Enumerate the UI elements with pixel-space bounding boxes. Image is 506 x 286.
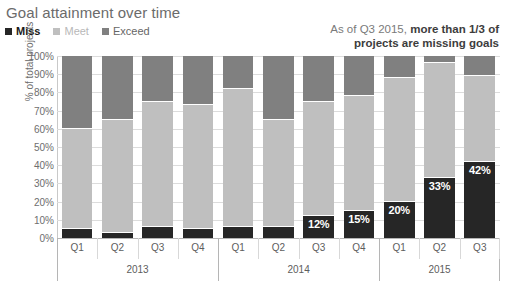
x-axis-year-labels: 201320142015 (57, 259, 500, 282)
x-axis-tick (57, 238, 58, 259)
x-axis-year-divider (218, 259, 219, 281)
stacked-bar[interactable]: 20% (384, 56, 415, 238)
bar-segment-meet[interactable] (384, 78, 415, 202)
x-axis-quarter-text: Q1 (393, 242, 406, 253)
x-axis-tick (499, 238, 500, 259)
bar-segment-miss[interactable] (223, 227, 254, 238)
bar-segment-miss[interactable] (183, 229, 214, 238)
bar-slot: 20% (379, 56, 419, 238)
x-axis-tick (258, 238, 259, 259)
stacked-bar[interactable] (223, 56, 254, 238)
bar-data-label: 12% (303, 218, 334, 230)
x-axis-year-label: 2015 (379, 259, 500, 282)
x-axis: Q1Q2Q3Q4Q1Q2Q3Q4Q1Q2Q3 201320142015 (57, 238, 500, 282)
x-axis-quarter-label: Q3 (299, 238, 339, 260)
bar-segment-exceed[interactable] (384, 56, 415, 78)
bar-segment-exceed[interactable] (424, 56, 455, 63)
annotation-normal-text: As of Q3 2015, (330, 23, 410, 35)
bar-slot: 33% (419, 56, 459, 238)
bar-slot (178, 56, 218, 238)
bar-segment-exceed[interactable] (142, 56, 173, 102)
x-axis-tick (138, 238, 139, 259)
y-axis-tick-labels: 0%10%20%30%40%50%60%70%80%90%100% (20, 56, 54, 238)
y-axis-tick-label: 0% (40, 233, 54, 244)
stacked-bar[interactable] (102, 56, 133, 238)
legend-swatch-miss (5, 28, 12, 35)
bar-slot (97, 56, 137, 238)
bar-segment-miss[interactable]: 12% (303, 216, 334, 238)
x-axis-tick (379, 238, 380, 259)
bar-segment-meet[interactable] (102, 120, 133, 233)
bar-segment-exceed[interactable] (223, 56, 254, 89)
bar-segment-exceed[interactable] (62, 56, 93, 129)
bar-slot: 12% (299, 56, 339, 238)
y-axis-tick-label: 80% (34, 87, 54, 98)
bar-segment-meet[interactable] (263, 120, 294, 227)
stacked-bar[interactable]: 12% (303, 56, 334, 238)
x-axis-quarter-labels: Q1Q2Q3Q4Q1Q2Q3Q4Q1Q2Q3 (57, 238, 500, 260)
y-axis-tick-label: 70% (34, 105, 54, 116)
bar-segment-meet[interactable] (344, 96, 375, 211)
bar-segment-exceed[interactable] (303, 56, 334, 102)
y-axis-tick-label: 20% (34, 196, 54, 207)
stacked-bar[interactable]: 15% (344, 56, 375, 238)
bar-segment-meet[interactable] (424, 63, 455, 178)
stacked-bar[interactable] (142, 56, 173, 238)
bar-slot (138, 56, 178, 238)
bar-slot (258, 56, 298, 238)
x-axis-tick (299, 238, 300, 259)
x-axis-quarter-text: Q3 (473, 242, 486, 253)
legend-label-meet: Meet (64, 26, 88, 37)
bar-segment-miss[interactable] (263, 227, 294, 238)
x-axis-quarter-text: Q4 (352, 242, 365, 253)
bar-segment-meet[interactable] (464, 76, 495, 162)
bar-segment-miss[interactable]: 42% (464, 162, 495, 238)
x-axis-tick (419, 238, 420, 259)
bar-segment-meet[interactable] (183, 105, 214, 229)
bar-segment-exceed[interactable] (263, 56, 294, 120)
bar-segment-meet[interactable] (223, 89, 254, 227)
bar-segment-exceed[interactable] (183, 56, 214, 105)
bar-segment-exceed[interactable] (344, 56, 375, 96)
x-axis-quarter-label: Q1 (379, 238, 419, 260)
legend-item-exceed[interactable]: Exceed (102, 26, 150, 37)
x-axis-year-label: 2014 (218, 259, 379, 282)
x-axis-quarter-text: Q3 (151, 242, 164, 253)
x-axis-tick (97, 238, 98, 259)
x-axis-year-divider (379, 259, 380, 281)
x-axis-year-label: 2013 (57, 259, 218, 282)
x-axis-year-divider (499, 259, 500, 281)
bar-segment-miss[interactable]: 20% (384, 202, 415, 238)
bar-segment-miss[interactable] (142, 227, 173, 238)
y-axis-tick-label: 30% (34, 178, 54, 189)
x-axis-year-text: 2015 (428, 264, 450, 275)
bar-slot (218, 56, 258, 238)
bar-segment-meet[interactable] (142, 102, 173, 228)
bar-segment-meet[interactable] (62, 129, 93, 229)
chart-annotation: As of Q3 2015, more than 1/3 of projects… (284, 22, 499, 50)
stacked-bar[interactable] (62, 56, 93, 238)
bar-segment-exceed[interactable] (464, 56, 495, 76)
x-axis-quarter-label: Q2 (258, 238, 298, 260)
stacked-bar[interactable]: 33% (424, 56, 455, 238)
bar-segment-exceed[interactable] (102, 56, 133, 120)
x-axis-quarter-text: Q2 (433, 242, 446, 253)
stacked-bar[interactable] (183, 56, 214, 238)
stacked-bar[interactable]: 42% (464, 56, 495, 238)
legend-swatch-exceed (102, 28, 109, 35)
y-axis-tick-label: 60% (34, 123, 54, 134)
y-axis-tick-label: 40% (34, 160, 54, 171)
bar-data-label: 20% (384, 204, 415, 216)
bar-segment-miss[interactable]: 33% (424, 178, 455, 238)
bar-data-label: 15% (344, 213, 375, 225)
x-axis-quarter-label: Q1 (218, 238, 258, 260)
x-axis-quarter-label: Q1 (57, 238, 97, 260)
bar-series-container: 12%15%20%33%42% (57, 56, 500, 238)
bar-segment-miss[interactable] (62, 229, 93, 238)
y-axis-tick-label: 90% (34, 69, 54, 80)
bar-segment-miss[interactable]: 15% (344, 211, 375, 238)
stacked-bar[interactable] (263, 56, 294, 238)
x-axis-year-divider (57, 259, 58, 281)
bar-segment-meet[interactable] (303, 102, 334, 217)
legend-item-meet[interactable]: Meet (53, 26, 88, 37)
